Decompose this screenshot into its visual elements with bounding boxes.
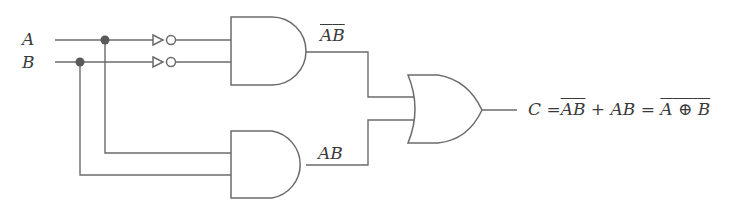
xor-operator-icon: ⊕	[678, 99, 692, 119]
junction-b-icon	[76, 58, 85, 67]
a-bar-term: A	[320, 25, 332, 45]
a-branch-wire	[105, 40, 231, 153]
xnor-logic-circuit-diagram: A B AB AB C =AB + AB = A ⊕ B	[0, 0, 744, 212]
eq-a-bar: A	[561, 99, 573, 119]
output-c: C	[528, 99, 541, 119]
top-and-gate-icon	[231, 17, 306, 85]
b-bar-term: B	[332, 25, 345, 45]
inverter-a-triangle-icon	[153, 35, 163, 45]
xor-a: A	[660, 99, 672, 119]
inverter-b-bubble-icon	[167, 58, 176, 67]
input-a-label: A	[22, 31, 34, 48]
output-equation: C =AB + AB = A ⊕ B	[528, 101, 710, 118]
top-and-output-label: AB	[320, 27, 345, 44]
or-gate-icon	[408, 75, 482, 143]
eq-ab-term: AB	[611, 99, 636, 119]
xor-b: B	[698, 99, 711, 119]
inverter-b-triangle-icon	[153, 57, 163, 67]
top-and-output-wire	[306, 52, 416, 97]
b-branch-wire	[80, 62, 231, 175]
equals-2: =	[641, 99, 655, 119]
equals-1: =	[546, 99, 560, 119]
junction-a-icon	[101, 36, 110, 45]
bottom-and-gate-icon	[231, 131, 300, 198]
xnor-expression: A ⊕ B	[660, 99, 710, 119]
input-b-label: B	[22, 54, 35, 71]
eq-b-bar: B	[573, 99, 586, 119]
inverter-a-bubble-icon	[167, 36, 176, 45]
bottom-and-output-label: AB	[318, 145, 343, 162]
plus-sign: +	[591, 99, 605, 119]
